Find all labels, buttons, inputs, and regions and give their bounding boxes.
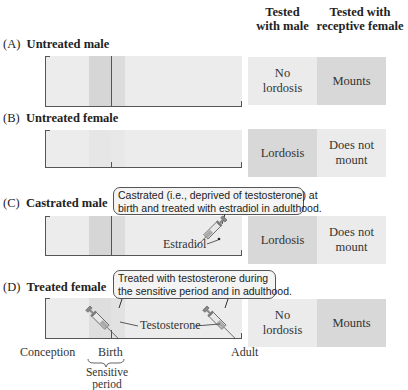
- label-line: Sensitive: [84, 366, 130, 378]
- sensitive-period-label: Sensitive period: [84, 366, 130, 390]
- result-female-d: Mounts: [317, 299, 386, 347]
- label-line: period: [84, 378, 130, 390]
- injection-label-testosterone: Testosterone: [140, 318, 200, 333]
- result-male-d: Nolordosis: [248, 299, 317, 347]
- result-text: Mounts: [332, 316, 370, 331]
- axis-label-conception: Conception: [20, 345, 75, 360]
- result-text: lordosis: [263, 323, 303, 338]
- axis-label-adult: Adult: [231, 345, 258, 360]
- result-text: No: [263, 308, 303, 323]
